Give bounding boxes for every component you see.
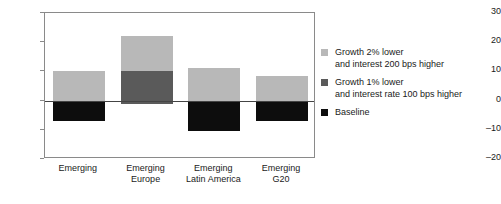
bar-group[interactable] (256, 13, 308, 157)
plot-area (44, 12, 315, 158)
bar-segment (256, 76, 308, 101)
bar-group[interactable] (188, 13, 240, 157)
y-axis-tick-label: –20 (467, 153, 501, 162)
x-axis-category-label: EmergingG20 (237, 163, 325, 185)
plot-inner (45, 13, 314, 157)
y-axis-tick-label: 20 (467, 36, 501, 45)
legend-item[interactable]: Baseline (321, 107, 499, 119)
chart-legend: Growth 2% lowerand interest 200 bps high… (321, 47, 499, 126)
legend-label-line2: and interest 200 bps higher (335, 59, 499, 71)
legend-item[interactable]: Growth 2% lowerand interest 200 bps high… (321, 47, 499, 70)
legend-item[interactable]: Growth 1% lowerand interest rate 100 bps… (321, 77, 499, 100)
bar-segment (256, 101, 308, 121)
legend-label-line2: and interest rate 100 bps higher (335, 89, 499, 101)
bar-segment (188, 101, 240, 132)
legend-label-line1: Baseline (335, 107, 499, 119)
legend-label-line1: Growth 2% lower (335, 47, 499, 59)
chart-figure: 3020100–10–20 EmergingEmergingEuropeEmer… (0, 0, 501, 204)
x-axis-label-line: Emerging (237, 163, 325, 174)
bar-segment (121, 36, 173, 71)
bar-segment (121, 71, 173, 103)
y-axis-tick-label: 30 (467, 7, 501, 16)
y-axis-tick-mark (40, 158, 44, 159)
bar-segment (53, 101, 105, 121)
legend-color-swatch (321, 109, 328, 116)
legend-label-line1: Growth 1% lower (335, 77, 499, 89)
bar-segment (53, 71, 105, 100)
bar-group[interactable] (121, 13, 173, 157)
bar-segment (188, 68, 240, 100)
x-axis-label-line: G20 (237, 174, 325, 185)
bar-group[interactable] (53, 13, 105, 157)
legend-color-swatch (321, 49, 328, 56)
legend-color-swatch (321, 79, 328, 86)
zero-baseline (45, 101, 314, 102)
